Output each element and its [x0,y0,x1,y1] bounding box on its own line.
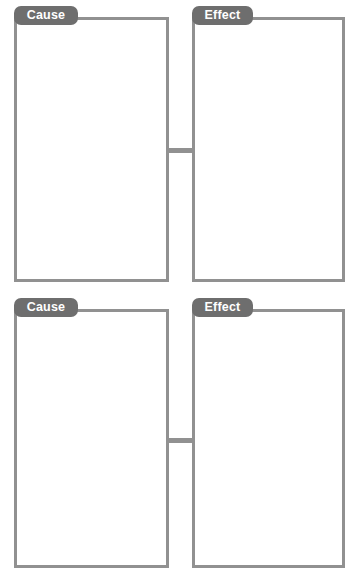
cause-effect-worksheet: Cause Effect Cause Effect [0,0,360,579]
cause-effect-connector [167,148,194,153]
cause-effect-connector [167,438,194,443]
cause-box-text[interactable] [20,23,163,276]
cause-box[interactable] [14,17,169,282]
effect-tab-label: Effect [192,6,253,25]
effect-box[interactable] [192,17,345,282]
cause-box[interactable] [14,309,169,568]
cause-effect-row: Cause Effect [0,0,360,290]
cause-tab-label: Cause [14,298,78,317]
cause-tab-label: Cause [14,6,78,25]
effect-box-text[interactable] [198,23,339,276]
cause-effect-row: Cause Effect [0,292,360,579]
cause-box-text[interactable] [20,315,163,562]
effect-box[interactable] [192,309,345,568]
effect-tab-label: Effect [192,298,253,317]
effect-box-text[interactable] [198,315,339,562]
